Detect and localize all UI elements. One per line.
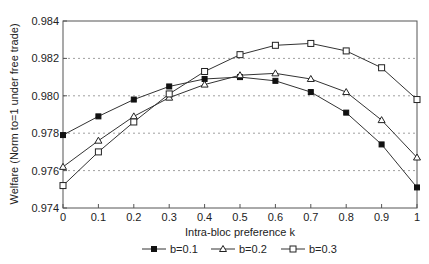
x-tick-label: 0.5 (232, 211, 247, 223)
filled-square-marker (308, 90, 313, 95)
y-tick-label: 0.978 (31, 127, 59, 139)
legend-label: b=0.1 (170, 243, 198, 255)
open-square-marker (343, 48, 349, 54)
open-square-marker (60, 183, 66, 189)
filled-square-marker (96, 114, 101, 119)
x-tick-label: 0.6 (268, 211, 283, 223)
x-axis-title: Intra-bloc preference k (185, 226, 296, 238)
open-square-marker (308, 40, 314, 46)
x-tick-label: 0.8 (339, 211, 354, 223)
series-line (63, 73, 417, 167)
open-square-marker (290, 246, 296, 252)
series-b-0-2 (60, 70, 421, 170)
filled-square-marker (273, 78, 278, 83)
open-triangle-marker (378, 117, 385, 123)
open-square-marker (95, 149, 101, 155)
open-square-marker (237, 52, 243, 58)
x-tick-label: 0.9 (374, 211, 389, 223)
x-tick-label: 0.2 (126, 211, 141, 223)
line-chart: 00.10.20.30.40.50.60.70.80.91 0.9740.976… (0, 0, 429, 264)
open-triangle-marker (272, 70, 279, 76)
open-square-marker (272, 42, 278, 48)
open-triangle-marker (60, 163, 67, 169)
x-tick-label: 0.4 (197, 211, 212, 223)
y-tick-label: 0.980 (31, 90, 59, 102)
filled-square-marker (167, 84, 172, 89)
y-tick-label: 0.984 (31, 15, 59, 27)
y-tick-label: 0.974 (31, 202, 59, 214)
open-square-marker (379, 65, 385, 71)
open-square-marker (166, 91, 172, 97)
open-square-marker (131, 119, 137, 125)
filled-square-marker (415, 185, 420, 190)
series-line (63, 43, 417, 185)
legend-label: b=0.3 (309, 243, 337, 255)
filled-square-marker (61, 133, 66, 138)
filled-square-marker (152, 247, 157, 252)
filled-square-marker (131, 97, 136, 102)
series-b-0-3 (60, 40, 420, 188)
y-tick-label: 0.976 (31, 165, 59, 177)
legend: b=0.1b=0.2b=0.3 (142, 243, 337, 255)
y-axis-title: Welfare (Norm to=1 under free trade) (8, 23, 20, 204)
filled-square-marker (379, 142, 384, 147)
legend-item: b=0.3 (281, 243, 337, 255)
plot-frame (63, 21, 417, 208)
x-axis-ticks: 00.10.20.30.40.50.60.70.80.91 (60, 204, 420, 223)
legend-item: b=0.1 (142, 243, 198, 255)
data-series (60, 40, 421, 189)
legend-label: b=0.2 (239, 243, 267, 255)
legend-item: b=0.2 (211, 243, 267, 255)
open-triangle-marker (95, 137, 102, 143)
filled-square-marker (344, 110, 349, 115)
y-tick-label: 0.982 (31, 52, 59, 64)
x-tick-label: 0.3 (162, 211, 177, 223)
x-tick-label: 0 (60, 211, 66, 223)
x-tick-label: 1 (414, 211, 420, 223)
open-triangle-marker (130, 113, 137, 119)
open-square-marker (414, 97, 420, 103)
series-b-0-1 (61, 75, 420, 190)
open-square-marker (202, 68, 208, 74)
x-tick-label: 0.7 (303, 211, 318, 223)
x-tick-label: 0.1 (91, 211, 106, 223)
